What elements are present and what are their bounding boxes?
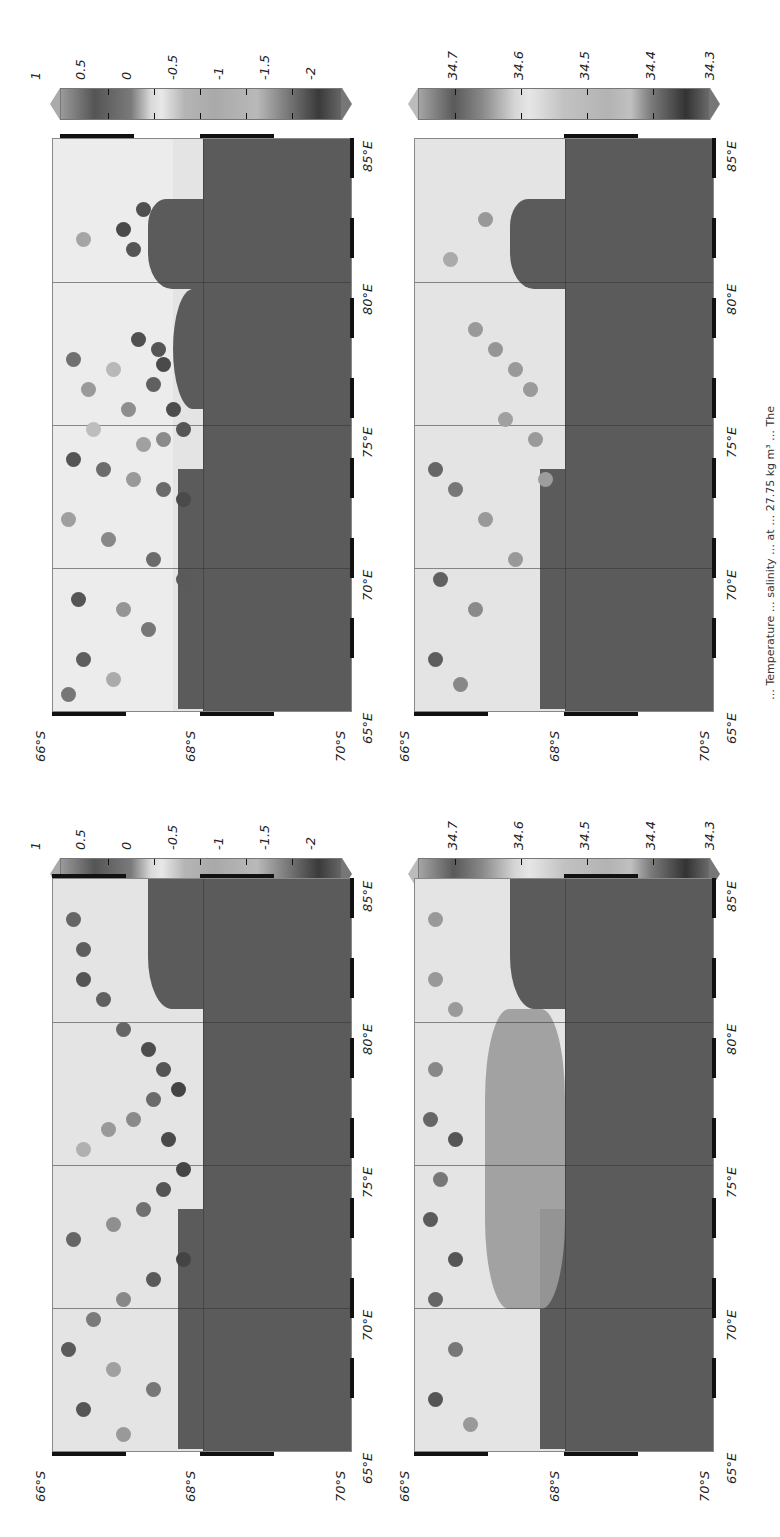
lon-label: 75°E xyxy=(724,427,739,458)
colorbar-tick-label: 34.5 xyxy=(577,51,592,80)
colorbar-tick-label: 34.7 xyxy=(445,821,460,850)
lon-label: 65°E xyxy=(724,713,739,744)
colorbar-tick-label: 34.3 xyxy=(702,51,717,80)
lon-label: 65°E xyxy=(724,1453,739,1484)
colorbar-tick-label: 34.3 xyxy=(702,821,717,850)
lon-label: 70°E xyxy=(724,1310,739,1341)
panel-bottom-right-salinity: 34.7 34.6 34.5 34.4 34.3 85°E 80°E 75°E … xyxy=(0,770,780,1537)
lon-label: 75°E xyxy=(724,1167,739,1198)
colorbar-tick-label: 34.6 xyxy=(511,51,526,80)
colorbar-tick-label: 34.7 xyxy=(445,51,460,80)
map-frame xyxy=(414,878,714,1452)
colorbar-tick-label: 34.4 xyxy=(643,51,658,80)
colorbar-tick-label: 34.5 xyxy=(577,821,592,850)
colorbar-tick-label: 34.6 xyxy=(511,821,526,850)
lon-label: 80°E xyxy=(724,1024,739,1055)
colorbar-tick-label: 34.4 xyxy=(643,821,658,850)
lon-label: 80°E xyxy=(724,284,739,315)
lat-label: 66°S xyxy=(397,1471,412,1502)
lon-label: 70°E xyxy=(724,570,739,601)
panel-top-right-salinity: 34.7 34.6 34.5 34.4 34.3 85°E xyxy=(0,0,780,770)
lat-label: 68°S xyxy=(547,731,562,762)
lon-label: 85°E xyxy=(724,141,739,172)
salinity-colorbar xyxy=(418,88,710,120)
map-frame xyxy=(414,138,714,712)
lat-label: 70°S xyxy=(697,1471,712,1502)
lon-label: 85°E xyxy=(724,881,739,912)
lat-label: 66°S xyxy=(397,731,412,762)
lat-label: 68°S xyxy=(547,1471,562,1502)
figure-caption-fragment: … Temperature … salinity … at … 27.75 kg… xyxy=(764,406,777,700)
lat-label: 70°S xyxy=(697,731,712,762)
